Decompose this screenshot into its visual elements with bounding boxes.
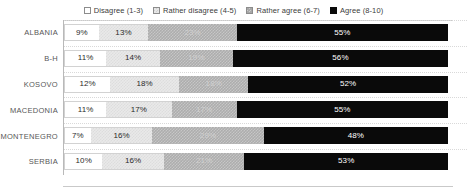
bar-segment[interactable]: 52% (248, 76, 448, 93)
bar-segment[interactable]: 7% (64, 127, 91, 144)
bar-segment[interactable]: 13% (99, 24, 149, 41)
legend-swatch-disagree-icon (84, 7, 91, 14)
legend-item-2[interactable]: Rather agree (6-7) (246, 6, 320, 15)
category-label-montenegro: MONTENEGRO (0, 132, 63, 141)
segment-value-label: 19% (188, 54, 204, 62)
segment-value-label: 14% (125, 54, 141, 62)
chart-row: ALBANIA9%13%23%55% (0, 20, 467, 46)
segment-value-label: 16% (113, 132, 129, 140)
segment-value-label: 16% (125, 157, 141, 165)
legend-swatch-agree-icon (330, 7, 337, 14)
stacked-bar[interactable]: 10%16%21%53% (64, 153, 448, 170)
bar-track: 10%16%21%53% (63, 149, 467, 175)
legend-label: Rather disagree (4-5) (163, 6, 236, 15)
bar-segment[interactable]: 17% (172, 101, 237, 118)
stacked-bar[interactable]: 12%18%18%52% (64, 76, 448, 93)
segment-value-label: 11% (78, 54, 94, 62)
legend-label: Disagree (1-3) (94, 6, 143, 15)
legend-label: Agree (8-10) (340, 6, 383, 15)
bar-segment[interactable]: 23% (148, 24, 236, 41)
segment-value-label: 56% (332, 54, 348, 62)
bar-track: 11%17%17%55% (63, 97, 467, 123)
chart-row: SERBIA10%16%21%53% (0, 149, 467, 175)
segment-value-label: 48% (348, 132, 364, 140)
bar-segment[interactable]: 11% (64, 50, 106, 67)
bar-track: 11%14%19%56% (63, 46, 467, 72)
bar-segment[interactable]: 19% (160, 50, 233, 67)
bar-segment[interactable]: 16% (91, 127, 152, 144)
segment-value-label: 52% (340, 80, 356, 88)
bar-segment[interactable]: 55% (237, 24, 448, 41)
legend-item-0[interactable]: Disagree (1-3) (84, 6, 143, 15)
gridline (64, 123, 467, 124)
segment-value-label: 18% (206, 80, 222, 88)
bar-segment[interactable]: 9% (64, 24, 99, 41)
segment-value-label: 13% (115, 29, 131, 37)
category-label-kosovo: KOSOVO (0, 80, 63, 89)
category-label-b-h: B-H (0, 54, 63, 63)
bar-segment[interactable]: 48% (264, 127, 448, 144)
legend-swatch-rather-disagree-icon (153, 7, 160, 14)
bar-segment[interactable]: 10% (64, 153, 102, 170)
bar-segment[interactable]: 18% (110, 76, 179, 93)
segment-value-label: 17% (131, 106, 147, 114)
chart-legend: Disagree (1-3)Rather disagree (4-5)Rathe… (0, 0, 467, 20)
segment-value-label: 23% (184, 29, 200, 37)
bar-track: 7%16%29%48% (63, 123, 467, 149)
segment-value-label: 21% (196, 157, 212, 165)
bar-segment[interactable]: 12% (64, 76, 110, 93)
bar-segment[interactable]: 29% (152, 127, 263, 144)
stacked-bar[interactable]: 9%13%23%55% (64, 24, 448, 41)
gridline (64, 46, 467, 47)
chart-row: MACEDONIA11%17%17%55% (0, 97, 467, 123)
segment-value-label: 29% (200, 132, 216, 140)
bar-segment[interactable]: 11% (64, 101, 106, 118)
gridline (64, 97, 467, 98)
segment-value-label: 11% (78, 106, 94, 114)
bar-segment[interactable]: 16% (102, 153, 163, 170)
segment-value-label: 55% (334, 106, 350, 114)
segment-value-label: 55% (334, 29, 350, 37)
segment-value-label: 12% (79, 80, 95, 88)
bar-segment[interactable]: 55% (237, 101, 448, 118)
gridline (64, 20, 467, 21)
segment-value-label: 7% (72, 132, 84, 140)
bar-segment[interactable]: 53% (244, 153, 448, 170)
segment-value-label: 9% (76, 29, 88, 37)
bar-segment[interactable]: 17% (106, 101, 171, 118)
stacked-bar-chart: Disagree (1-3)Rather disagree (4-5)Rathe… (0, 0, 467, 187)
legend-item-1[interactable]: Rather disagree (4-5) (153, 6, 236, 15)
bar-segment[interactable]: 14% (106, 50, 160, 67)
bar-segment[interactable]: 56% (233, 50, 448, 67)
gridline (64, 149, 467, 150)
stacked-bar[interactable]: 7%16%29%48% (64, 127, 448, 144)
legend-swatch-rather-agree-icon (246, 7, 253, 14)
category-label-serbia: SERBIA (0, 157, 63, 166)
chart-row: KOSOVO12%18%18%52% (0, 72, 467, 98)
legend-label: Rather agree (6-7) (256, 6, 320, 15)
plot-area: ALBANIA9%13%23%55%B-H11%14%19%56%KOSOVO1… (0, 20, 467, 187)
chart-row: B-H11%14%19%56% (0, 46, 467, 72)
plot-bottom-rule (63, 186, 453, 187)
chart-row: MONTENEGRO7%16%29%48% (0, 123, 467, 149)
bar-segment[interactable]: 21% (164, 153, 245, 170)
segment-value-label: 10% (76, 157, 92, 165)
segment-value-label: 53% (338, 157, 354, 165)
gridline (64, 72, 467, 73)
legend-item-3[interactable]: Agree (8-10) (330, 6, 383, 15)
stacked-bar[interactable]: 11%17%17%55% (64, 101, 448, 118)
bar-track: 12%18%18%52% (63, 72, 467, 98)
category-label-macedonia: MACEDONIA (0, 106, 63, 115)
bar-segment[interactable]: 18% (179, 76, 248, 93)
bar-track: 9%13%23%55% (63, 20, 467, 46)
category-label-albania: ALBANIA (0, 28, 63, 37)
segment-value-label: 17% (196, 106, 212, 114)
segment-value-label: 18% (136, 80, 152, 88)
stacked-bar[interactable]: 11%14%19%56% (64, 50, 448, 67)
